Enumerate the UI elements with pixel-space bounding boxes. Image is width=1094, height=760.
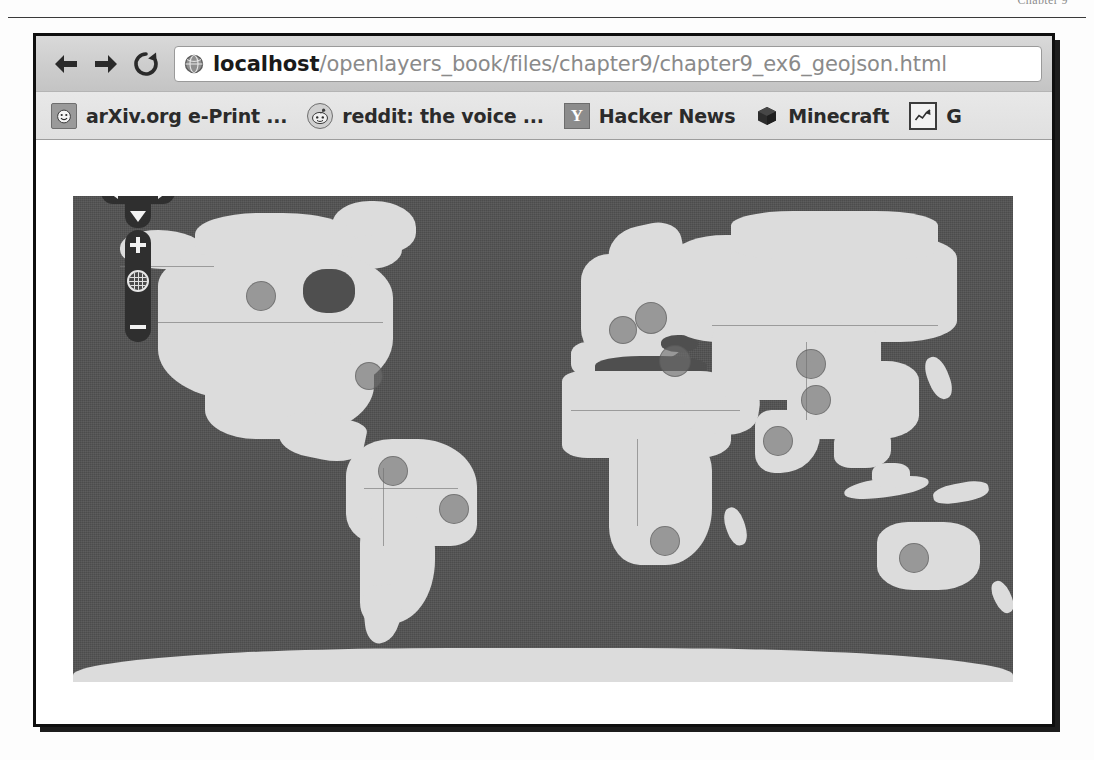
graticule-line [364, 488, 458, 489]
reload-button[interactable] [126, 44, 166, 84]
zoom-in-button[interactable] [125, 232, 151, 258]
globe-meridian [134, 272, 135, 290]
pan-left-button[interactable] [107, 196, 118, 199]
book-page: Chapter 9 [0, 0, 1094, 760]
bookmark-label: arXiv.org e-Print ... [86, 105, 287, 127]
bookmark-minecraft[interactable]: Minecraft [746, 100, 898, 132]
bookmark-hacker-news[interactable]: Y Hacker News [555, 99, 744, 133]
bookmark-label: Hacker News [599, 105, 735, 127]
map-marker-south-america-east[interactable] [439, 494, 469, 524]
forward-button[interactable] [86, 44, 126, 84]
reddit-alien-icon [307, 103, 333, 129]
y-combinator-icon: Y [564, 103, 590, 129]
bookmarks-bar: arXiv.org e-Print ... reddit: the voice … [36, 92, 1052, 140]
landmass-southeast-asia [834, 429, 890, 468]
book-header-rule [8, 17, 1086, 18]
globe-meridian [142, 272, 143, 290]
pan-down-button[interactable] [130, 211, 146, 222]
map-navigation-controls [101, 196, 175, 354]
landmass-borneo [872, 463, 910, 487]
bookmark-label: Minecraft [788, 105, 889, 127]
map-marker-europe-central[interactable] [635, 302, 667, 334]
back-button[interactable] [46, 44, 86, 84]
zoom-out-button[interactable] [125, 314, 151, 340]
chart-icon [909, 102, 937, 130]
minus-horizontal-bar [130, 325, 146, 329]
url-text: localhost/openlayers_book/files/chapter9… [213, 52, 947, 76]
cube-icon [755, 104, 779, 128]
pan-right-button[interactable] [158, 196, 169, 199]
pan-control [101, 196, 175, 228]
bookmark-reddit[interactable]: reddit: the voice ... [298, 99, 553, 133]
url-host: localhost [213, 52, 319, 76]
map-marker-asia-east-south[interactable] [801, 385, 831, 415]
bookmark-label: G [946, 105, 961, 127]
browser-toolbar: localhost/openlayers_book/files/chapter9… [36, 36, 1052, 92]
bookmark-label: reddit: the voice ... [342, 105, 544, 127]
book-header-text: Chapter 9 [1017, 0, 1068, 4]
graticule-line [571, 410, 740, 411]
page-viewport [36, 140, 1052, 723]
map-marker-asia-east-north[interactable] [796, 349, 826, 379]
globe-meridian [138, 272, 139, 290]
openlayers-map[interactable] [73, 196, 1013, 682]
graticule-line [712, 325, 938, 326]
plus-vertical-bar [136, 237, 140, 253]
globe-icon [183, 53, 205, 75]
smiley-icon [51, 103, 77, 129]
book-page-header: Chapter 9 [0, 0, 1094, 22]
zoom-to-max-extent-button[interactable] [127, 270, 149, 292]
hudson-bay [303, 269, 355, 313]
address-bar[interactable]: localhost/openlayers_book/files/chapter9… [174, 46, 1042, 82]
landmass-siberia-north [731, 211, 938, 260]
map-marker-north-america-east[interactable] [355, 362, 383, 390]
graticule-line [637, 439, 638, 526]
url-path: /openlayers_book/files/chapter9/chapter9… [319, 52, 947, 76]
map-marker-north-america-west[interactable] [246, 281, 276, 311]
browser-window: localhost/openlayers_book/files/chapter9… [33, 33, 1055, 727]
map-marker-europe-west[interactable] [609, 316, 637, 344]
landmass-antarctica [73, 648, 1013, 682]
map-tile-layer [73, 196, 1013, 682]
graticule-line [158, 322, 384, 323]
bookmark-clipped[interactable]: G [900, 98, 970, 134]
bookmark-arxiv[interactable]: arXiv.org e-Print ... [42, 99, 296, 133]
map-marker-europe-southeast[interactable] [659, 345, 691, 377]
zoom-control [125, 230, 151, 342]
map-marker-south-america-north[interactable] [378, 456, 408, 486]
